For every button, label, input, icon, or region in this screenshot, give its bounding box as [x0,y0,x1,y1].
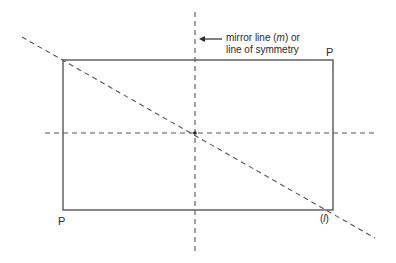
mirror-line-label-m: m [277,32,285,43]
line-of-symmetry-label: line of symmetry [226,44,299,56]
line-l-label: (l) [320,213,329,225]
center-point [193,131,197,135]
arrow-icon [199,36,222,42]
rectangle [63,60,333,210]
mirror-line-label: mirror line (m) or [226,32,300,44]
mirror-line-label-suffix: ) or [285,32,300,43]
diagonal-line [22,37,375,238]
point-p-top-right-label: P [326,46,333,58]
mirror-line-label-prefix: mirror line ( [226,32,277,43]
line-l-close: ) [326,213,329,224]
point-p-bottom-left-label: P [58,215,65,227]
